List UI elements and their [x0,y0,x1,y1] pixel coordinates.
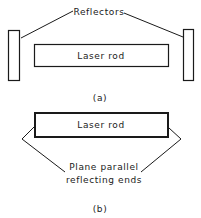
ends-label-line2: reflecting ends [66,175,142,185]
leader-line-left-end [22,127,65,172]
laser-rod-label-b: Laser rod [77,120,124,130]
leader-line-left [21,11,73,38]
leader-line-right-end [141,128,181,172]
ends-label-line1: Plane parallel [69,162,138,172]
right-reflector [184,30,194,81]
laser-cavity-diagram: Reflectors Laser rod (a) Laser rod Plane… [0,0,201,218]
caption-b: (b) [93,204,108,214]
diagram-a: Reflectors Laser rod (a) [9,7,194,103]
diagram-b: Laser rod Plane parallel reflecting ends… [22,113,181,214]
laser-rod-label-a: Laser rod [77,51,124,61]
caption-a: (a) [93,93,107,103]
leader-line-right [124,13,183,37]
reflectors-label: Reflectors [74,7,125,17]
left-reflector [9,31,20,81]
